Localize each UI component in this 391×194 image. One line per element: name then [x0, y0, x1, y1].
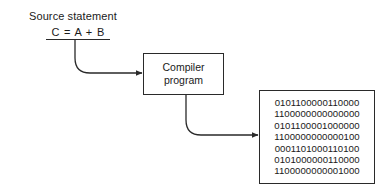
- machine-code-line: 1100000000000100: [274, 131, 359, 142]
- machine-code-line: 0101000000110000: [274, 154, 359, 165]
- machine-code-line: 0001101000110100: [275, 143, 360, 154]
- arrow-source-to-compiler: [75, 40, 142, 74]
- compiler-box-line-2: program: [164, 74, 203, 87]
- machine-code-line: 0101100000110000: [275, 97, 360, 108]
- statement-underline: [46, 39, 110, 40]
- machine-code-box: 0101100000110000 1100000000000000 010110…: [259, 90, 375, 184]
- arrow-compiler-to-machine-code: [186, 95, 258, 135]
- compiler-box-line-1: Compiler: [162, 61, 204, 74]
- source-statement-label: Source statement: [29, 10, 117, 22]
- machine-code-line: 1100000000000000: [274, 108, 359, 119]
- source-statement: C = A + B: [47, 26, 109, 38]
- machine-code-line: 1100000000001000: [274, 165, 359, 176]
- compiler-program-box: Compiler program: [143, 53, 224, 95]
- machine-code-line: 0101100001000000: [274, 120, 359, 131]
